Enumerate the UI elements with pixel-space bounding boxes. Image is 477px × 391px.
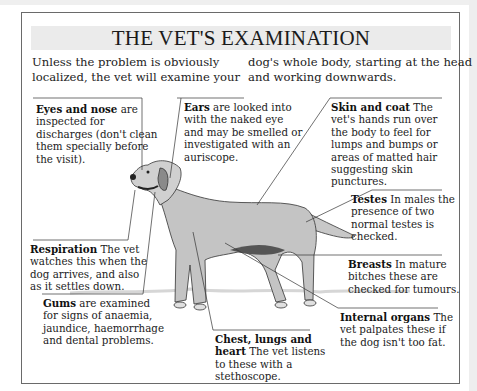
callout-ears: Ears are looked into with the naked eye … xyxy=(184,101,302,163)
dog-icon xyxy=(130,161,355,310)
callout-chest: Chest, lungs and heart The vet listens t… xyxy=(215,333,325,383)
callout-internal-organs: Internal organs The vet palpates these i… xyxy=(340,311,453,348)
callout-breasts: Breasts In mature bitches these are chec… xyxy=(348,258,460,295)
callout-eyes-nose: Eyes and nose are inspected for discharg… xyxy=(36,103,157,165)
callout-testes: Testes In males the presence of two norm… xyxy=(351,193,455,243)
callout-skin-coat: Skin and coat The vet's hands run over t… xyxy=(331,101,438,188)
callout-respiration: Respiration The vet watches this when th… xyxy=(30,243,147,293)
callout-gums: Gums are examined for signs of anaemia, … xyxy=(43,297,164,347)
leader-respiration xyxy=(33,190,135,240)
